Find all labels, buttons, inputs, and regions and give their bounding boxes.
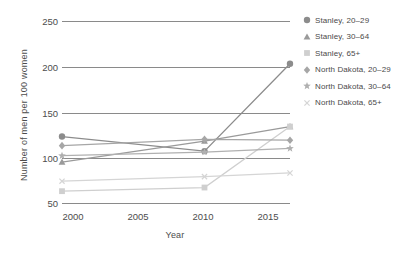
star-marker-icon bbox=[299, 79, 315, 93]
y-axis-tick-250: 250 bbox=[24, 16, 58, 27]
plot-area bbox=[62, 14, 290, 209]
square-marker-icon bbox=[299, 46, 315, 60]
diamond-marker-icon bbox=[299, 63, 315, 77]
x-axis-title: Year bbox=[60, 230, 290, 240]
gridline-50 bbox=[62, 203, 290, 204]
legend-item-north-dakota-20-29[interactable]: North Dakota, 20–29 bbox=[299, 62, 409, 79]
legend-label: North Dakota, 20–29 bbox=[315, 65, 391, 74]
x-axis-tick-2010: 2010 bbox=[183, 211, 223, 222]
circle-marker-icon bbox=[299, 13, 315, 27]
legend-item-north-dakota-65plus[interactable]: North Dakota, 65+ bbox=[299, 95, 409, 112]
y-axis-tick-100: 100 bbox=[24, 153, 58, 164]
x-axis-tick-2015: 2015 bbox=[248, 211, 288, 222]
legend-label: North Dakota, 30–64 bbox=[315, 82, 391, 91]
x-marker-icon bbox=[299, 96, 315, 110]
legend-item-stanley-20-29[interactable]: Stanley, 20–29 bbox=[299, 12, 409, 29]
gridline-200 bbox=[62, 67, 290, 68]
legend-label: Stanley, 65+ bbox=[315, 49, 360, 58]
legend-label: Stanley, 20–29 bbox=[315, 16, 369, 25]
legend: Stanley, 20–29 Stanley, 30–64 Stanley, 6… bbox=[299, 12, 409, 111]
line-chart: Number of men per 100 women 250 200 150 … bbox=[0, 0, 409, 256]
gridline-100 bbox=[62, 158, 290, 159]
y-axis-tick-150: 150 bbox=[24, 108, 58, 119]
legend-item-north-dakota-30-64[interactable]: North Dakota, 30–64 bbox=[299, 78, 409, 95]
y-axis-tick-200: 200 bbox=[24, 62, 58, 73]
legend-label: North Dakota, 65+ bbox=[315, 98, 382, 107]
gridline-150 bbox=[62, 113, 290, 114]
x-axis-tick-2000: 2000 bbox=[53, 211, 93, 222]
x-axis-tick-2005: 2005 bbox=[118, 211, 158, 222]
y-axis-tick-50: 50 bbox=[24, 198, 58, 209]
triangle-marker-icon bbox=[299, 30, 315, 44]
legend-item-stanley-30-64[interactable]: Stanley, 30–64 bbox=[299, 29, 409, 46]
gridline-250 bbox=[62, 21, 290, 22]
legend-label: Stanley, 30–64 bbox=[315, 32, 369, 41]
legend-item-stanley-65plus[interactable]: Stanley, 65+ bbox=[299, 45, 409, 62]
